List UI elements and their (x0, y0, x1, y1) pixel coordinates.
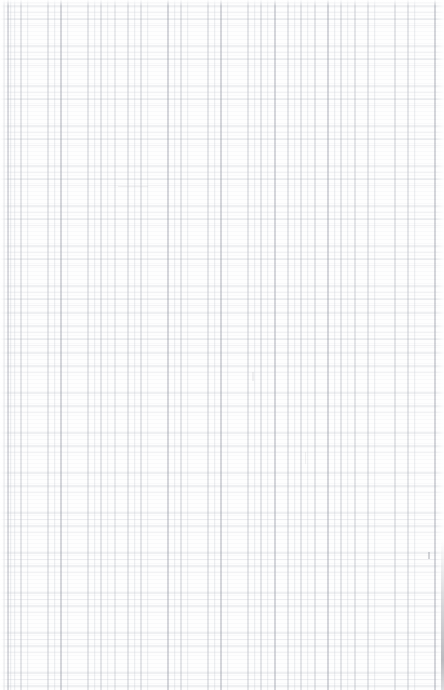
grid-paper-page (0, 0, 444, 690)
paper-background (0, 0, 444, 690)
